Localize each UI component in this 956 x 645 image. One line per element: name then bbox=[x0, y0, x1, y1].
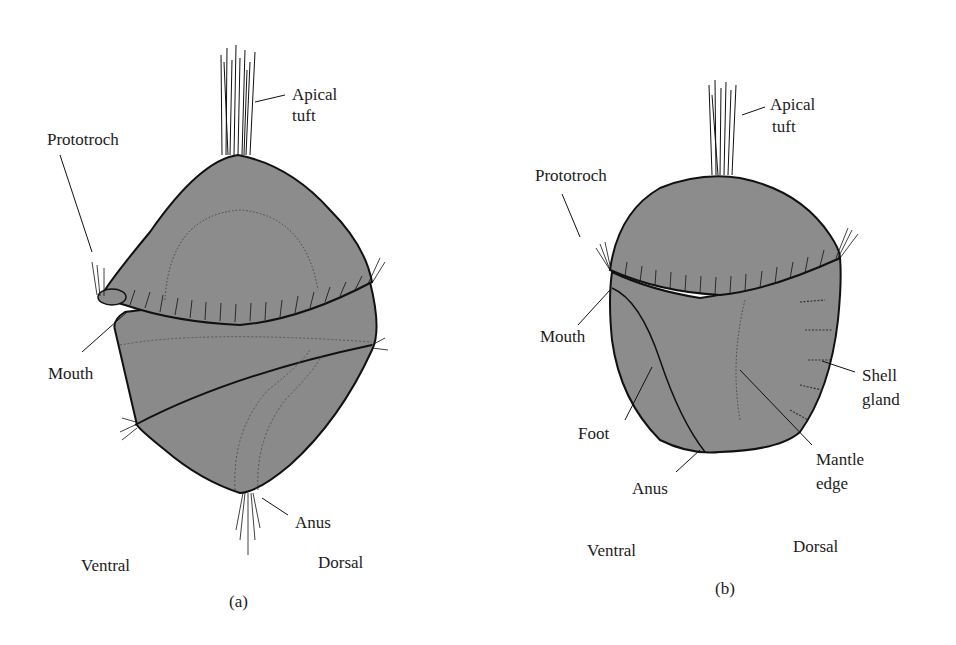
anal-cilia-a bbox=[236, 493, 260, 555]
label-mouth-a: Mouth bbox=[48, 364, 93, 383]
label-mantle-edge-b-line1: Mantle bbox=[816, 450, 864, 469]
label-apical-tuft-b-line2: tuft bbox=[772, 117, 796, 136]
label-apical-tuft-a-line1: Apical bbox=[292, 85, 337, 104]
label-mouth-b: Mouth bbox=[540, 327, 585, 346]
label-prototroch-a: Prototroch bbox=[47, 130, 119, 149]
label-foot-b: Foot bbox=[578, 424, 609, 443]
label-dorsal-b: Dorsal bbox=[793, 537, 838, 556]
label-apical-tuft-b-line1: Apical bbox=[770, 95, 815, 114]
apical-tuft-a bbox=[221, 45, 255, 155]
label-ventral-b: Ventral bbox=[587, 541, 636, 560]
label-mantle-edge-b-line2: edge bbox=[816, 474, 848, 493]
label-apical-tuft-a-line2: tuft bbox=[292, 106, 316, 125]
caption-b: (b) bbox=[715, 579, 735, 598]
label-shell-gland-b-line2: gland bbox=[862, 390, 900, 409]
label-anus-b: Anus bbox=[632, 479, 668, 498]
apical-tuft-b bbox=[709, 80, 736, 175]
label-dorsal-a: Dorsal bbox=[318, 553, 363, 572]
label-prototroch-b: Prototroch bbox=[535, 166, 607, 185]
caption-a: (a) bbox=[229, 592, 248, 611]
label-shell-gland-b-line1: Shell bbox=[862, 366, 897, 385]
label-ventral-a: Ventral bbox=[81, 556, 130, 575]
panel-b-veliger bbox=[562, 80, 858, 472]
label-anus-a: Anus bbox=[295, 513, 331, 532]
panel-a-trochophore bbox=[60, 45, 388, 555]
episphere-a bbox=[100, 155, 372, 325]
